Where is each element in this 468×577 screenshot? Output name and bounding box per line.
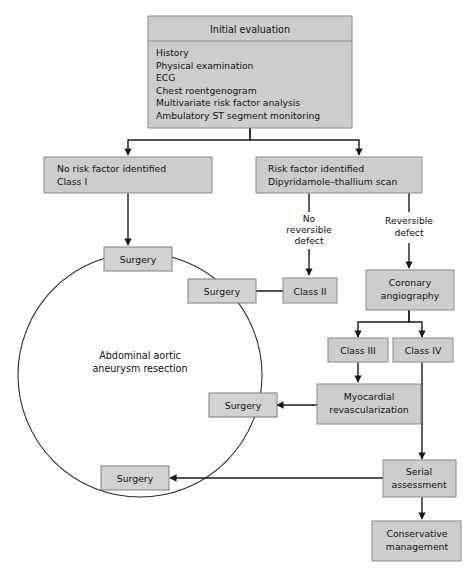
circle-center-label: Abdominal aortic aneurysm resection <box>92 350 187 374</box>
connector-initial-to-right <box>250 128 359 155</box>
svg-text:defect: defect <box>394 227 423 238</box>
coronary-angiography-line2: angiography <box>381 290 440 301</box>
myocardial-revascularization-box: Myocardial revascularization <box>317 384 421 424</box>
coronary-angiography-line1: Coronary <box>389 277 432 288</box>
label-reversible-defect: Reversible defect <box>385 215 433 238</box>
myocardial-revascularization-line1: Myocardial <box>344 391 394 402</box>
surgery-box-mid-right: Surgery <box>209 393 277 417</box>
class-2-label: Class II <box>294 286 327 297</box>
connector-initial-to-left <box>128 128 250 155</box>
label-no-reversible-defect: No reversible defect <box>286 213 332 246</box>
class-3-label: Class III <box>340 345 376 356</box>
class-4-label: Class IV <box>405 345 442 356</box>
svg-text:Reversible: Reversible <box>385 215 433 226</box>
svg-text:No: No <box>303 213 316 224</box>
class-2-box: Class II <box>283 278 337 303</box>
initial-evaluation-item-3: Chest roentgenogram <box>156 85 257 96</box>
coronary-angiography-box: Coronary angiography <box>366 270 454 310</box>
serial-assessment-line1: Serial <box>406 466 432 477</box>
initial-evaluation-item-4: Multivariate risk factor analysis <box>156 97 300 108</box>
no-risk-factor-line1: No risk factor identified <box>57 163 166 174</box>
initial-evaluation-header: Initial evaluation <box>210 24 290 35</box>
conservative-management-line2: management <box>386 541 449 552</box>
class-3-box: Class III <box>328 338 388 362</box>
svg-text:aneurysm resection: aneurysm resection <box>92 363 187 374</box>
initial-evaluation-item-0: History <box>156 47 189 58</box>
risk-factor-line1: Risk factor identified <box>268 163 364 174</box>
connector-angio-to-class3 <box>358 310 409 337</box>
surgery-box-bottom: Surgery <box>101 466 169 490</box>
no-risk-factor-box: No risk factor identified Class I <box>44 157 212 193</box>
flowchart-container: Initial evaluation History Physical exam… <box>0 0 468 577</box>
surgery-mid-right-label: Surgery <box>225 400 262 411</box>
myocardial-revascularization-line2: revascularization <box>329 404 409 415</box>
serial-assessment-line2: assessment <box>391 479 446 490</box>
svg-text:reversible: reversible <box>286 224 332 235</box>
initial-evaluation-item-2: ECG <box>156 72 175 83</box>
initial-evaluation-item-1: Physical examination <box>156 60 254 71</box>
risk-factor-line2: Dipyridamole–thallium scan <box>268 176 397 187</box>
surgery-bottom-label: Surgery <box>117 473 154 484</box>
class-4-box: Class IV <box>393 338 453 362</box>
surgery-upper-right-label: Surgery <box>204 286 241 297</box>
surgery-top-label: Surgery <box>120 254 157 265</box>
risk-factor-box: Risk factor identified Dipyridamole–thal… <box>256 157 422 193</box>
flowchart-svg: Initial evaluation History Physical exam… <box>0 0 468 577</box>
connector-angio-to-class4 <box>409 310 422 337</box>
svg-text:defect: defect <box>294 235 323 246</box>
serial-assessment-box: Serial assessment <box>383 460 456 497</box>
conservative-management-line1: Conservative <box>386 528 447 539</box>
no-risk-factor-line2: Class I <box>57 176 87 187</box>
surgery-box-top: Surgery <box>104 247 172 271</box>
conservative-management-box: Conservative management <box>372 521 461 561</box>
initial-evaluation-item-5: Ambulatory ST segment monitoring <box>156 110 320 121</box>
surgery-box-upper-right: Surgery <box>188 279 256 303</box>
initial-evaluation-box: Initial evaluation History Physical exam… <box>148 16 352 128</box>
svg-text:Abdominal aortic: Abdominal aortic <box>99 350 181 361</box>
